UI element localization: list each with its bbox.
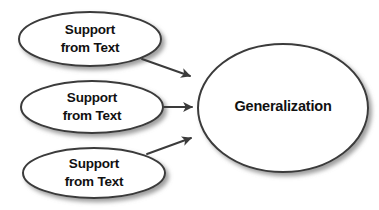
node-support-2[interactable]: Support from Text bbox=[21, 81, 163, 133]
support-1-label-line1: Support bbox=[65, 22, 116, 37]
node-generalization[interactable]: Generalization bbox=[198, 44, 368, 172]
arrow-support-3-to-generalization bbox=[147, 138, 191, 154]
support-3-label-line1: Support bbox=[69, 156, 120, 171]
generalization-label: Generalization bbox=[234, 98, 331, 114]
arrow-support-1-to-generalization bbox=[142, 59, 190, 76]
node-support-3[interactable]: Support from Text bbox=[23, 148, 165, 198]
diagram-svg: Support from Text Support from Text Supp… bbox=[0, 0, 379, 210]
node-support-1[interactable]: Support from Text bbox=[19, 12, 161, 66]
support-2-label-line1: Support bbox=[67, 90, 118, 105]
support-1-label-line2: from Text bbox=[61, 40, 120, 55]
diagram-canvas: Support from Text Support from Text Supp… bbox=[0, 0, 379, 210]
support-2-label-line2: from Text bbox=[63, 108, 122, 123]
support-3-label-line2: from Text bbox=[65, 174, 124, 189]
